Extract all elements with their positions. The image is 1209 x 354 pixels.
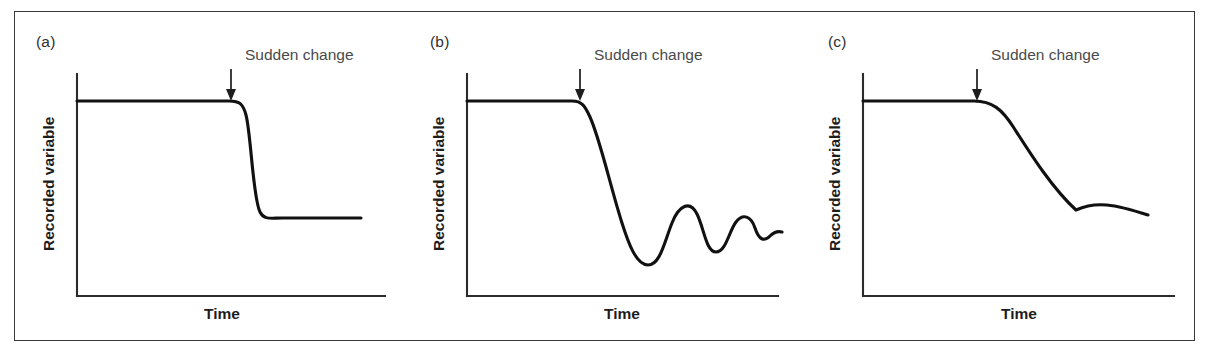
arrow-head-a — [226, 89, 236, 101]
arrow-head-b — [575, 89, 585, 101]
x-axis-title-b: Time — [557, 305, 687, 323]
y-axis-title-b: Recorded variable — [430, 117, 448, 251]
curve-a-step-down — [77, 101, 361, 218]
panel-label-b: (b) — [430, 33, 450, 51]
annotation-sudden-change-a: Sudden change — [245, 46, 354, 64]
panel-a: (a) Sudden change Recorded variable Time — [14, 11, 414, 341]
curve-b-damped-oscillation — [467, 101, 782, 265]
annotation-sudden-change-b: Sudden change — [594, 46, 703, 64]
figure-root: (a) Sudden change Recorded variable Time… — [0, 0, 1209, 354]
y-axis-title-a: Recorded variable — [40, 117, 58, 251]
panel-b: (b) Sudden change Recorded variable Time — [414, 11, 814, 341]
curve-c-gradual-decline — [863, 101, 1148, 215]
x-axis-title-a: Time — [157, 305, 287, 323]
annotation-sudden-change-c: Sudden change — [991, 46, 1100, 64]
arrow-head-c — [972, 89, 982, 101]
y-axis-title-c: Recorded variable — [826, 117, 844, 251]
panel-label-a: (a) — [36, 33, 56, 51]
x-axis-title-c: Time — [954, 305, 1084, 323]
panel-label-c: (c) — [828, 33, 847, 51]
panel-a-plot — [14, 11, 414, 341]
panel-c: (c) Sudden change Recorded variable Time — [814, 11, 1195, 341]
